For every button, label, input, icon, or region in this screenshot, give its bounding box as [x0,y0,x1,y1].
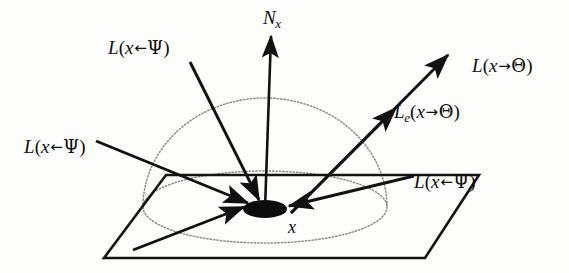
paren-close: ) [454,101,460,122]
right-arrow-icon: → [498,57,512,75]
paren-close: ) [79,136,85,157]
outgoing-radiance-label: L(x→Θ) [472,56,533,75]
paren-close: ) [526,55,532,76]
incoming-ray-lower-left [133,207,244,250]
point-symbol: x [416,101,425,122]
left-arrow-icon: ← [50,138,64,156]
left-arrow-icon: ← [440,173,454,191]
right-arrow-icon: → [425,103,439,121]
func-symbol: L [472,55,483,76]
theta-symbol: Θ [439,101,454,122]
paren-close: ) [469,171,475,192]
normal-vector-label: Nx [263,8,281,30]
left-arrow-icon: ← [134,39,148,57]
incoming-ray-right [289,176,414,206]
psi-symbol: Ψ [147,37,163,58]
emitted-radiance-ray [291,116,388,213]
point-symbol: x [125,37,134,58]
func-symbol: L [414,171,425,192]
point-symbol: x [489,55,498,76]
surface-point-label: x [288,218,296,236]
func-symbol: L [24,136,35,157]
incoming-ray-upper-left [190,62,259,200]
incoming-radiance-label-left: L(x←Ψ) [24,137,86,156]
psi-symbol: Ψ [453,171,469,192]
point-symbol: x [431,171,440,192]
normal-subscript: x [275,16,281,31]
point-symbol: x [41,136,50,157]
psi-symbol: Ψ [63,136,79,157]
emitted-radiance-label: Le(x→Θ) [394,102,460,124]
incoming-radiance-label-right: L(x←Ψ) [414,172,476,191]
normal-vector-ray [265,36,271,209]
incoming-radiance-label-upper-left: L(x←Ψ) [108,38,170,57]
incoming-ray-left [96,141,248,203]
theta-symbol: Θ [511,55,526,76]
func-symbol: L [108,37,119,58]
light-transport-diagram: Nx L(x←Ψ) L(x←Ψ) L(x←Ψ) L(x→Θ) Le(x→Θ) x [0,0,569,273]
point-symbol: x [288,217,296,237]
paren-close: ) [163,37,169,58]
surface-point-marker [243,200,287,218]
normal-symbol: N [263,7,276,28]
